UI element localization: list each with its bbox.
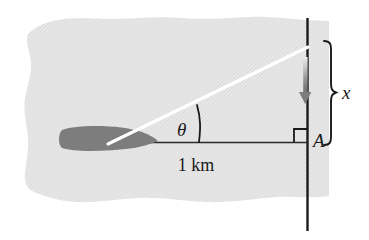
baseline-label: 1 km: [178, 155, 215, 175]
diagram-canvas: θ 1 km A x: [0, 0, 369, 240]
vertical-distance-label: x: [341, 82, 351, 103]
down-arrow-shaft: [303, 57, 307, 95]
figure-container: θ 1 km A x: [0, 0, 369, 240]
point-a-label: A: [311, 130, 325, 151]
angle-label: θ: [177, 119, 186, 140]
